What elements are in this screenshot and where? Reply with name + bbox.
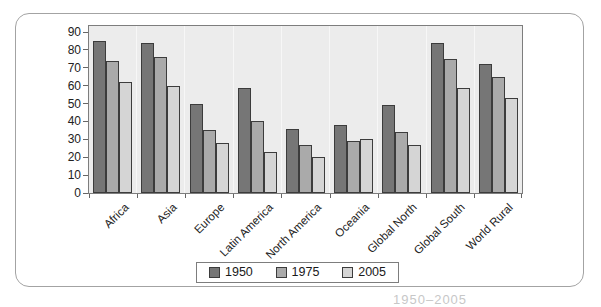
y-tick-70 bbox=[83, 67, 88, 68]
y-tick-label-10: 10 bbox=[51, 169, 81, 181]
bar-1950-world-rural bbox=[479, 64, 492, 193]
y-tick-label-50: 50 bbox=[51, 98, 81, 110]
bar-group-europe bbox=[185, 26, 233, 193]
bar-1975-oceania bbox=[347, 141, 360, 193]
y-tick-40 bbox=[83, 121, 88, 122]
bar-1950-asia bbox=[141, 43, 154, 193]
bar-1975-asia bbox=[154, 57, 167, 193]
legend-swatch-2005 bbox=[342, 267, 353, 278]
legend-label-1950: 1950 bbox=[225, 266, 253, 279]
legend-item-2005: 2005 bbox=[342, 266, 386, 279]
bar-2005-asia bbox=[167, 86, 180, 193]
x-label-europe: Europe bbox=[192, 201, 227, 236]
y-tick-50 bbox=[83, 103, 88, 104]
y-tick-80 bbox=[83, 49, 88, 50]
bar-1975-europe bbox=[203, 130, 216, 193]
bar-2005-north-america bbox=[312, 157, 325, 193]
x-label-oceania: Oceania bbox=[332, 201, 371, 240]
bar-2005-world-rural bbox=[505, 98, 518, 193]
y-tick-60 bbox=[83, 85, 88, 86]
bar-group-global-south bbox=[427, 26, 475, 193]
bar-1950-global-north bbox=[382, 105, 395, 193]
legend-item-1975: 1975 bbox=[276, 266, 320, 279]
y-tick-0 bbox=[83, 193, 88, 194]
bar-1975-global-south bbox=[444, 59, 457, 193]
bar-1975-africa bbox=[106, 61, 119, 193]
bar-group-world-rural bbox=[475, 26, 522, 193]
x-label-global-south: Global South bbox=[412, 201, 468, 257]
x-label-asia: Asia bbox=[154, 201, 178, 225]
legend-swatch-1975 bbox=[276, 267, 287, 278]
legend-item-1950: 1950 bbox=[209, 266, 253, 279]
y-tick-label-60: 60 bbox=[51, 80, 81, 92]
bar-2005-global-north bbox=[408, 145, 421, 193]
bar-2005-oceania bbox=[360, 139, 373, 193]
bar-1950-north-america bbox=[286, 129, 299, 193]
x-axis-labels: AfricaAsiaEuropeLatin AmericaNorth Ameri… bbox=[89, 198, 522, 260]
y-tick-label-30: 30 bbox=[51, 133, 81, 145]
y-tick-10 bbox=[83, 175, 88, 176]
bar-2005-global-south bbox=[457, 88, 470, 194]
bar-1950-africa bbox=[93, 41, 106, 193]
bar-1950-europe bbox=[190, 104, 203, 193]
legend-swatch-1950 bbox=[209, 267, 220, 278]
bar-1950-oceania bbox=[334, 125, 347, 193]
y-tick-20 bbox=[83, 157, 88, 158]
bar-1950-global-south bbox=[431, 43, 444, 193]
bar-1975-latin-america bbox=[251, 121, 264, 193]
y-tick-30 bbox=[83, 139, 88, 140]
bar-group-asia bbox=[137, 26, 185, 193]
y-tick-90 bbox=[83, 32, 88, 33]
bar-2005-africa bbox=[119, 82, 132, 193]
bar-2005-latin-america bbox=[264, 152, 277, 193]
bar-groups bbox=[89, 26, 522, 193]
bar-1975-north-america bbox=[299, 145, 312, 193]
bar-group-latin-america bbox=[234, 26, 282, 193]
bar-1975-global-north bbox=[395, 132, 408, 193]
bar-group-global-north bbox=[378, 26, 426, 193]
x-label-world-rural: World Rural bbox=[464, 201, 515, 252]
legend-label-1975: 1975 bbox=[292, 266, 320, 279]
legend: 195019752005 bbox=[196, 262, 399, 283]
bar-2005-europe bbox=[216, 143, 229, 193]
y-tick-label-20: 20 bbox=[51, 151, 81, 163]
bar-group-oceania bbox=[330, 26, 378, 193]
y-tick-label-80: 80 bbox=[51, 44, 81, 56]
y-tick-label-0: 0 bbox=[51, 187, 81, 199]
y-tick-label-40: 40 bbox=[51, 115, 81, 127]
bar-group-africa bbox=[89, 26, 137, 193]
y-tick-label-70: 70 bbox=[51, 62, 81, 74]
legend-label-2005: 2005 bbox=[358, 266, 386, 279]
y-tick-label-90: 90 bbox=[51, 26, 81, 38]
bar-1975-world-rural bbox=[492, 77, 505, 193]
bar-group-north-america bbox=[282, 26, 330, 193]
caption-fragment: 1950–2005 bbox=[393, 292, 467, 307]
bar-1950-latin-america bbox=[238, 88, 251, 194]
x-label-africa: Africa bbox=[101, 201, 130, 230]
